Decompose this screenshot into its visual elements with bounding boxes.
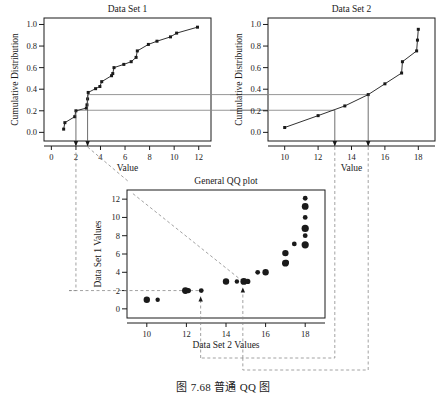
figure-container: Data Set 1024681012Value0.00.20.40.60.81… — [0, 0, 447, 403]
chart-title-qq: General QQ plot — [194, 176, 258, 186]
data-point-qq-19 — [302, 203, 309, 210]
data-point-qq-17 — [302, 225, 309, 232]
data-point-data-set-1-19 — [155, 40, 158, 43]
xtick-label-data-set-2-0: 10 — [280, 152, 289, 162]
ytick-label-data-set-2-2: 0.4 — [250, 84, 261, 94]
data-point-data-set-2-1 — [317, 114, 320, 117]
data-point-qq-16 — [303, 233, 308, 238]
data-point-data-set-2-8 — [416, 39, 419, 42]
data-point-data-set-2-5 — [400, 72, 403, 75]
xtick-label-qq-3: 16 — [261, 329, 270, 339]
data-point-data-set-2-7 — [415, 49, 418, 52]
xtick-label-data-set-1-3: 6 — [123, 152, 127, 162]
ytick-label-qq-3: 6 — [116, 249, 120, 259]
ylabel-data-set-1: Cumulative Distribution — [10, 33, 20, 126]
data-point-data-set-1-21 — [175, 32, 178, 35]
data-point-data-set-2-9 — [417, 28, 420, 31]
xtick-label-qq-2: 14 — [222, 329, 231, 339]
data-point-qq-12 — [284, 260, 289, 265]
xtick-label-qq-0: 10 — [143, 329, 152, 339]
data-point-qq-6 — [235, 279, 239, 283]
xlabel-data-set-1: Value — [117, 163, 139, 173]
xtick-label-data-set-2-1: 12 — [314, 152, 323, 162]
xlabel-data-set-2: Value — [341, 163, 363, 173]
data-point-qq-10 — [262, 269, 268, 275]
xtick-label-data-set-1-2: 4 — [98, 152, 103, 162]
data-point-qq-1 — [155, 298, 159, 302]
ylabel-data-set-2: Cumulative Distribution — [234, 33, 244, 126]
xlabel-qq: Data Set 2 Values — [192, 340, 259, 350]
data-point-data-set-1-10 — [100, 80, 103, 83]
data-point-data-set-1-22 — [196, 26, 199, 29]
data-point-data-set-1-14 — [122, 63, 125, 66]
data-point-data-set-1-17 — [136, 49, 139, 52]
data-point-data-set-2-2 — [343, 104, 346, 107]
xtick-label-data-set-1-6: 12 — [194, 152, 203, 162]
figure-canvas: Data Set 1024681012Value0.00.20.40.60.81… — [0, 0, 447, 403]
xtick-label-data-set-1-0: 0 — [49, 152, 53, 162]
ytick-label-data-set-1-0: 0.0 — [26, 127, 37, 137]
data-point-qq-18 — [303, 215, 308, 220]
xtick-label-qq-1: 12 — [182, 329, 191, 339]
xtick-label-data-set-2-4: 18 — [414, 152, 423, 162]
data-point-qq-8 — [245, 279, 250, 284]
ytick-label-qq-4: 8 — [116, 231, 120, 241]
data-point-qq-15 — [302, 241, 309, 248]
ytick-label-data-set-2-5: 1.0 — [250, 19, 261, 29]
ytick-label-data-set-2-0: 0.0 — [250, 127, 261, 137]
ytick-label-data-set-1-3: 0.6 — [26, 63, 37, 73]
data-point-qq-4 — [199, 288, 204, 293]
xtick-label-qq-4: 18 — [301, 329, 310, 339]
data-point-qq-20 — [303, 196, 308, 201]
ytick-label-data-set-2-3: 0.6 — [250, 63, 261, 73]
figure-caption: 图 7.68 普通 QQ 图 — [0, 378, 447, 394]
ytick-label-data-set-1-1: 0.2 — [26, 106, 37, 116]
ytick-label-data-set-1-5: 1.0 — [26, 19, 37, 29]
data-point-data-set-1-20 — [169, 35, 172, 38]
data-point-qq-0 — [144, 297, 150, 303]
data-point-qq-14 — [292, 242, 297, 247]
ytick-label-data-set-2-4: 0.8 — [250, 41, 261, 51]
ytick-label-data-set-1-4: 0.8 — [26, 41, 37, 51]
chart-title-data-set-2: Data Set 2 — [332, 4, 372, 14]
data-point-qq-13 — [282, 250, 288, 256]
data-point-data-set-2-6 — [401, 60, 404, 63]
data-point-data-set-1-7 — [87, 91, 90, 94]
data-point-data-set-1-16 — [135, 56, 138, 59]
data-point-data-set-1-1 — [63, 121, 66, 124]
data-point-data-set-2-4 — [383, 82, 386, 85]
ytick-label-data-set-1-2: 0.4 — [26, 84, 37, 94]
ytick-label-data-set-2-1: 0.2 — [250, 106, 261, 116]
data-point-data-set-1-5 — [85, 103, 88, 106]
data-point-data-set-1-13 — [112, 66, 115, 69]
xtick-label-data-set-1-4: 8 — [147, 152, 151, 162]
data-point-data-set-1-12 — [111, 72, 114, 75]
data-point-data-set-1-0 — [62, 128, 65, 131]
data-point-data-set-2-0 — [283, 126, 286, 129]
data-point-data-set-1-9 — [98, 85, 101, 88]
xtick-label-data-set-2-2: 14 — [347, 152, 356, 162]
xtick-label-data-set-1-5: 10 — [170, 152, 179, 162]
data-point-qq-5 — [223, 278, 229, 284]
data-point-data-set-1-18 — [147, 43, 150, 46]
ytick-label-qq-5: 10 — [112, 212, 121, 222]
data-point-data-set-1-8 — [94, 87, 97, 90]
data-point-qq-3 — [186, 288, 191, 293]
data-point-data-set-1-15 — [130, 60, 133, 63]
xtick-label-data-set-2-3: 16 — [381, 152, 390, 162]
ytick-label-qq-0: 0 — [116, 304, 120, 314]
ylabel-qq: Data Set 1 Values — [93, 220, 103, 287]
data-point-qq-9 — [255, 270, 260, 275]
ytick-label-qq-6: 12 — [112, 194, 121, 204]
chart-title-data-set-1: Data Set 1 — [108, 4, 148, 14]
